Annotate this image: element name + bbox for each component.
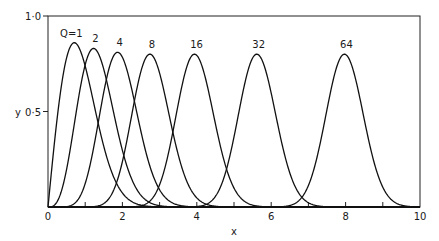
series-label: 64: [340, 39, 353, 50]
curve-q-32: [48, 54, 420, 207]
series-label: 16: [190, 39, 203, 50]
series-label: 2: [92, 33, 98, 44]
series-labels: Q=1248163264: [60, 28, 353, 50]
curves: [48, 43, 420, 207]
x-tick-label: 4: [194, 211, 200, 222]
y-axis-title: y: [15, 107, 21, 118]
x-tick-label: 2: [119, 211, 125, 222]
series-label: 4: [116, 37, 122, 48]
x-tick-label: 8: [342, 211, 348, 222]
curve-q-4: [48, 52, 420, 207]
x-axis-title: x: [231, 226, 237, 237]
x-tick-label: 10: [414, 211, 427, 222]
curve-q-64: [48, 54, 420, 207]
x-tick-label: 6: [268, 211, 274, 222]
plot-frame: [48, 16, 420, 207]
x-tick-label: 0: [45, 211, 51, 222]
series-label: 32: [252, 39, 265, 50]
curve-q-8: [48, 54, 420, 207]
series-label: 8: [149, 39, 155, 50]
chart: 02468100·51·0yx Q=1248163264: [0, 0, 439, 241]
curve-q-16: [48, 54, 420, 207]
y-tick-label: 1·0: [25, 11, 41, 22]
curve-q-2: [48, 48, 420, 207]
y-tick-label: 0·5: [25, 107, 41, 118]
series-label: Q=1: [60, 28, 83, 39]
